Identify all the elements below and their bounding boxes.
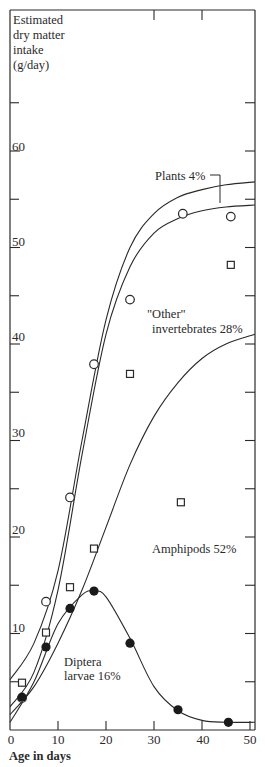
- open-square-marker: [43, 629, 50, 636]
- y-axis-title-line3: intake: [13, 43, 44, 57]
- x-axis-title: Age in days: [9, 749, 71, 763]
- x-tick-label-10: 10: [52, 732, 65, 747]
- annotation-diptera-line2: larvae 16%: [64, 669, 121, 683]
- open-square-marker: [177, 499, 184, 506]
- filled-circle-marker: [89, 586, 98, 595]
- x-tick-label-0: 0: [8, 732, 15, 747]
- x-tick-label-20: 20: [100, 732, 113, 747]
- y-tick-label-20: 20: [12, 522, 25, 537]
- fit-curve: [10, 334, 255, 714]
- filled-circle-marker: [173, 705, 182, 714]
- open-square-marker: [227, 261, 234, 268]
- y-axis-title-line1: Estimated: [13, 13, 64, 27]
- y-tick-label-10: 10: [12, 620, 25, 635]
- annotation-plants: Plants 4%: [155, 169, 205, 183]
- open-circle-marker: [42, 597, 51, 606]
- x-tick-label-40: 40: [197, 732, 210, 747]
- filled-circle-marker: [17, 693, 26, 702]
- y-tick-label-30: 30: [12, 425, 25, 440]
- x-tick-label-30: 30: [148, 732, 161, 747]
- open-square-marker: [91, 545, 98, 552]
- y-axis-title-line4: (g/day): [13, 58, 49, 72]
- y-tick-label-40: 40: [12, 329, 25, 344]
- annotation-other-line1: "Other": [147, 307, 186, 321]
- open-circle-marker: [126, 295, 135, 304]
- x-tick-label-50: 50: [244, 732, 257, 747]
- y-tick-label-60: 60: [12, 139, 25, 154]
- filled-circle-marker: [65, 604, 74, 613]
- open-circle-marker: [179, 209, 188, 218]
- open-square-marker: [19, 679, 26, 686]
- annotation-diptera-line1: Diptera: [64, 655, 102, 669]
- filled-circle-marker: [125, 639, 134, 648]
- data-markers: [17, 209, 235, 726]
- y-tick-label-50: 50: [12, 234, 25, 249]
- open-square-marker: [127, 370, 134, 377]
- annotation-other-line2: invertebrates 28%: [152, 322, 243, 336]
- open-circle-marker: [66, 493, 75, 502]
- filled-circle-marker: [41, 642, 50, 651]
- open-circle-marker: [227, 212, 236, 221]
- open-circle-marker: [90, 360, 99, 369]
- annotation-amphipods: Amphipods 52%: [152, 542, 236, 556]
- open-square-marker: [67, 584, 74, 591]
- filled-circle-marker: [224, 718, 233, 727]
- plants-leader-line: [210, 175, 220, 203]
- y-axis-title-line2: dry matter: [13, 28, 66, 42]
- intake-chart: Estimated dry matter intake (g/day) 60 5…: [0, 0, 265, 767]
